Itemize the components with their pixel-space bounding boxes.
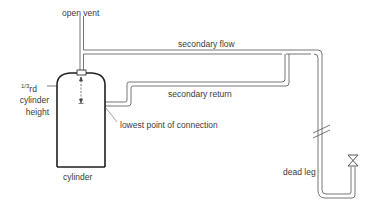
cylinder-height-label-2: height	[26, 107, 49, 117]
cylinder-cap	[77, 70, 86, 75]
dead-leg-pipe	[318, 167, 355, 198]
lowest-point-leader	[106, 108, 117, 122]
one-third-dimension	[47, 77, 84, 104]
one-third-label: 1/3rd	[21, 81, 37, 94]
lowest-point-label: lowest point of connection	[120, 120, 218, 130]
dead-leg-label: dead leg	[283, 167, 316, 177]
valve-icon	[348, 155, 358, 166]
secondary-flow-label: secondary flow	[178, 39, 235, 49]
open-vent-pipe	[80, 16, 84, 71]
cylinder-vessel	[57, 73, 105, 167]
diagram-canvas	[0, 0, 376, 214]
cylinder-label: cylinder	[63, 172, 92, 182]
secondary-return-label: secondary return	[168, 89, 232, 99]
one-third-suffix: rd	[29, 84, 37, 94]
open-vent-label: open vent	[62, 8, 99, 18]
cylinder-height-label-1: cylinder	[20, 95, 49, 105]
pipe-break-symbol	[313, 125, 330, 138]
